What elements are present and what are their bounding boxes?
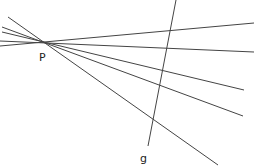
pencil-line-5	[8, 17, 218, 165]
pencil-line-4	[2, 27, 243, 116]
diagram-canvas: P g	[0, 0, 256, 168]
line-g-label: g	[140, 152, 147, 165]
point-p-label: P	[39, 51, 46, 64]
